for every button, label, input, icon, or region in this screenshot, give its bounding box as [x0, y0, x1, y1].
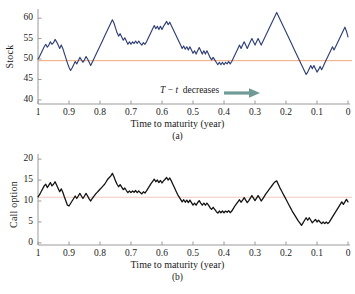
y-tick-label: 55	[13, 33, 33, 43]
x-tick-label: 1	[26, 107, 50, 117]
annotation-time-decreases: T − t decreases	[160, 85, 219, 95]
figure-container: Stock Time to maturity (year) (a) T − t …	[0, 0, 355, 294]
x-tick-label: 0.8	[88, 248, 112, 258]
page-footer-fragment	[8, 283, 348, 290]
annotation-text: decreases	[183, 85, 219, 95]
x-tick-label: 0.5	[181, 248, 205, 258]
y-tick-label: 15	[13, 174, 33, 184]
x-tick-label: 0.1	[305, 248, 329, 258]
x-tick-label: 0.3	[243, 107, 267, 117]
x-tick-label: 0.7	[119, 107, 143, 117]
x-tick-label: 0.5	[181, 107, 205, 117]
x-tick-label: 0	[336, 248, 355, 258]
panel-caption-a: (a)	[0, 131, 355, 141]
x-tick-label: 0.2	[274, 107, 298, 117]
y-tick-label: 45	[13, 73, 33, 83]
x-axis-label-b: Time to maturity (year)	[0, 259, 355, 270]
right-arrow-icon	[224, 87, 264, 99]
chart-panel-b: Call option Time to maturity (year) (b) …	[0, 147, 355, 294]
annotation-minus: −	[165, 85, 175, 95]
x-axis-label-a: Time to maturity (year)	[0, 118, 355, 129]
x-tick-label: 0.1	[305, 107, 329, 117]
x-tick-label: 0	[336, 107, 355, 117]
x-tick-label: 0.9	[57, 107, 81, 117]
x-tick-label: 0.9	[57, 248, 81, 258]
annotation-symbol-t: t	[175, 85, 178, 95]
y-tick-label: 50	[13, 53, 33, 63]
x-tick-label: 0.6	[150, 107, 174, 117]
x-tick-label: 0.3	[243, 248, 267, 258]
y-tick-label: 10	[13, 195, 33, 205]
x-tick-label: 0.4	[212, 248, 236, 258]
chart-panel-a: Stock Time to maturity (year) (a) T − t …	[0, 0, 355, 147]
y-tick-label: 60	[13, 12, 33, 22]
y-tick-label: 0	[13, 237, 33, 247]
x-tick-label: 0.2	[274, 248, 298, 258]
x-tick-label: 0.7	[119, 248, 143, 258]
panel-caption-b: (b)	[0, 272, 355, 282]
x-tick-label: 1	[26, 248, 50, 258]
x-tick-label: 0.8	[88, 107, 112, 117]
y-tick-label: 20	[13, 153, 33, 163]
y-tick-label: 5	[13, 216, 33, 226]
y-tick-label: 40	[13, 94, 33, 104]
x-tick-label: 0.4	[212, 107, 236, 117]
x-tick-label: 0.6	[150, 248, 174, 258]
